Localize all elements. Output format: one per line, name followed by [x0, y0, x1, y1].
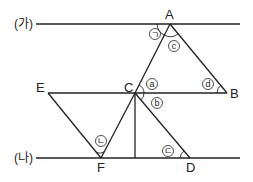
svg-text:ㄷ: ㄷ: [164, 146, 172, 156]
angle-marker-nieun: ㄴ: [96, 136, 107, 147]
point-label-e: E: [36, 80, 45, 95]
arc-angle-digeut: [180, 151, 184, 158]
svg-text:a: a: [149, 79, 154, 89]
point-label-c: C: [124, 80, 133, 95]
point-label-f: F: [97, 160, 105, 175]
angle-marker-c: c: [169, 41, 180, 52]
parallel-lines-angle-diagram: A B C D E F (가) (나) ㄱ c a d b ㄴ ㄷ: [0, 0, 253, 182]
svg-text:c: c: [172, 41, 177, 51]
arc-angle-c: [164, 34, 178, 37]
angle-marker-b: b: [152, 98, 163, 109]
arc-angle-d: [217, 85, 221, 93]
angle-marker-a: a: [147, 79, 158, 90]
svg-text:d: d: [205, 79, 210, 89]
angle-marker-d: d: [203, 79, 214, 90]
angle-marker-digeut: ㄷ: [163, 146, 174, 157]
segment-ab: [170, 24, 227, 93]
point-label-d: D: [186, 160, 195, 175]
line-label-ga: (가): [14, 17, 33, 31]
svg-text:ㄱ: ㄱ: [151, 30, 159, 40]
arc-angle-a: [139, 85, 144, 93]
svg-text:ㄴ: ㄴ: [97, 136, 105, 146]
line-label-na: (나): [14, 151, 33, 165]
point-label-b: B: [230, 86, 239, 101]
segment-ef: [48, 93, 101, 158]
point-label-a: A: [165, 7, 174, 22]
segment-fc: [101, 93, 135, 158]
arc-angle-b: [141, 93, 144, 100]
angle-marker-giyeok: ㄱ: [150, 29, 161, 40]
svg-text:b: b: [154, 98, 159, 108]
